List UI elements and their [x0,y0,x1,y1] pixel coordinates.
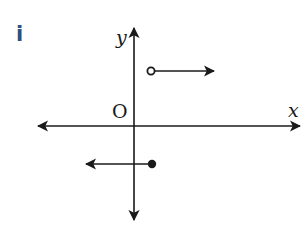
coordinate-diagram: y x O [0,0,308,232]
origin-label: O [112,100,128,122]
closed-endpoint-icon [148,160,156,168]
open-endpoint-icon [147,67,154,74]
lower-ray [86,160,156,168]
x-axis-label: x [288,99,299,121]
y-axis-label: y [115,26,127,48]
upper-ray [147,67,214,74]
